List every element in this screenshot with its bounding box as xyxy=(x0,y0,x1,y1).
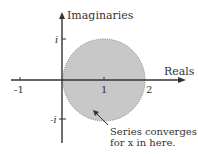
tick-label-x-1: 1 xyxy=(101,84,107,95)
y-axis-label: Imaginaries xyxy=(67,9,134,22)
annotation-line-2: for x in here. xyxy=(110,137,176,148)
tick-label-y-neg-i: -i xyxy=(50,114,57,125)
annotation-line-1: Series converges xyxy=(110,126,197,137)
complex-plane-diagram: Imaginaries Reals -1 1 2 i -i Series con… xyxy=(0,0,198,154)
tick-label-x-neg1: -1 xyxy=(14,84,24,95)
x-axis-label: Reals xyxy=(164,65,195,78)
tick-label-x-2: 2 xyxy=(146,84,152,95)
tick-label-y-i: i xyxy=(55,34,58,45)
imaginary-axis-arrow-icon xyxy=(59,12,65,19)
